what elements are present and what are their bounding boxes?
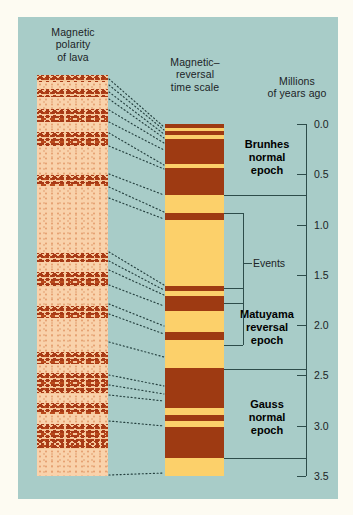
timescale-band xyxy=(165,368,224,407)
axis-tick-label: 0.5 xyxy=(314,168,329,180)
axis-tick xyxy=(297,325,306,326)
epoch-label-matuyama: Matuyama reversal epoch xyxy=(224,308,310,348)
timescale-band xyxy=(165,427,224,458)
axis-tick xyxy=(297,375,306,376)
axis-tick xyxy=(297,174,306,175)
timescale-band xyxy=(165,286,224,291)
timescale-band xyxy=(165,139,224,164)
axis-tick-label: 2.5 xyxy=(314,369,329,381)
epoch-label-brunhes: Brunhes normal epoch xyxy=(230,138,304,178)
axis-tick xyxy=(297,225,306,226)
axis-tick-label: 3.0 xyxy=(314,420,329,432)
events-label: Events xyxy=(253,257,285,269)
epoch-label-gauss: Gauss normal epoch xyxy=(230,398,304,438)
figure-panel: Magnetic polarity of lava Magnetic– reve… xyxy=(18,17,338,499)
events-bracket-stem-bottom xyxy=(224,345,243,346)
events-bracket-pointer xyxy=(244,263,252,264)
events-bracket-stem-mid1 xyxy=(224,288,243,289)
epoch-divider-gauss-end xyxy=(224,458,307,459)
timescale-band xyxy=(165,213,224,220)
axis-tick xyxy=(297,476,306,477)
axis-tick xyxy=(297,275,306,276)
magnetic-reversal-timescale-column xyxy=(165,124,224,476)
axis-tick-label: 2.0 xyxy=(314,319,329,331)
events-bracket-stem-top xyxy=(224,213,243,214)
timescale-band xyxy=(165,332,224,340)
axis-tick-label: 0.0 xyxy=(314,118,329,130)
timescale-band xyxy=(165,124,224,128)
epoch-divider-brunhes-matuyama xyxy=(224,195,307,196)
timescale-band xyxy=(165,296,224,311)
axis-tick-label: 1.5 xyxy=(314,269,329,281)
timescale-band xyxy=(165,168,224,195)
axis-tick xyxy=(297,124,306,125)
timescale-band xyxy=(165,131,224,135)
axis-tick-label: 3.5 xyxy=(314,470,329,482)
events-bracket-stem-mid2 xyxy=(224,303,243,304)
time-axis-line xyxy=(306,124,307,476)
leader-line-group xyxy=(109,79,164,475)
axis-tick xyxy=(297,426,306,427)
timescale-band xyxy=(165,415,224,421)
events-bracket-spine xyxy=(243,213,244,345)
epoch-divider-matuyama-gauss xyxy=(224,369,307,370)
axis-tick-label: 1.0 xyxy=(314,219,329,231)
